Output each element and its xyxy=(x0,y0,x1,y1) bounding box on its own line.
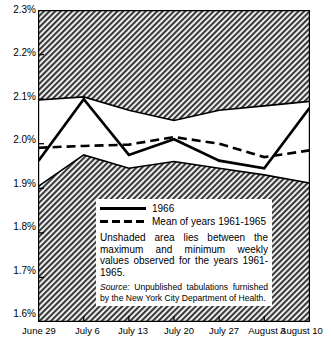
dashed-line-swatch-icon xyxy=(100,216,146,227)
y-axis-tick-label: 1.7% xyxy=(2,266,36,276)
legend-entry-mean: Mean of years 1961-1965 xyxy=(100,215,268,228)
y-axis-tick-label: 1.9% xyxy=(2,179,36,189)
y-axis-tick-label: 1.6% xyxy=(2,309,36,319)
chart-root: 2.3% 2.2% 2.1% 2.0% 1.9% 1.8% 1.7% 1.6% xyxy=(0,0,331,345)
y-axis-tick-label: 2.1% xyxy=(2,92,36,102)
source-label: Source: xyxy=(100,282,130,292)
y-axis-tick-label: 2.3% xyxy=(2,5,36,15)
legend-box: 1966 Mean of years 1961-1965 Unshaded ar… xyxy=(96,199,272,306)
y-axis-tick-label: 1.8% xyxy=(2,222,36,232)
x-axis-labels: June 29 July 6 July 13 July 20 July 27 A… xyxy=(0,325,331,345)
x-axis-tick-label: August 10 xyxy=(272,325,331,336)
solid-line-swatch-icon xyxy=(100,203,146,214)
legend-label-1966: 1966 xyxy=(152,203,174,214)
y-axis-tick-label: 2.2% xyxy=(2,48,36,58)
y-axis-tick-label: 2.0% xyxy=(2,135,36,145)
legend-note-text: Unshaded area lies between the maximum a… xyxy=(100,232,268,278)
legend-source-text: Source: Unpublished tabulations furnishe… xyxy=(100,282,268,302)
y-axis-labels: 2.3% 2.2% 2.1% 2.0% 1.9% 1.8% 1.7% 1.6% xyxy=(0,0,36,345)
legend-entry-1966: 1966 xyxy=(100,202,268,215)
legend-label-mean: Mean of years 1961-1965 xyxy=(152,216,266,227)
